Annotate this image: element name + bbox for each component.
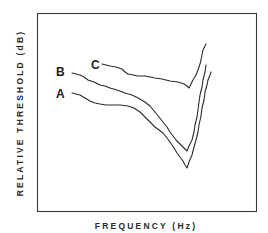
y-axis-label: RELATIVE THRESHOLD (dB): [15, 30, 25, 197]
curve-b: [72, 65, 206, 151]
label-series-a: A: [56, 87, 65, 101]
tuning-curve-chart: C B A FREQUENCY (Hz) RELATIVE THRESHOLD …: [0, 0, 268, 233]
curve-c: [102, 44, 206, 88]
label-series-c: C: [91, 58, 100, 72]
plot-frame: [38, 14, 257, 212]
x-axis-label: FREQUENCY (Hz): [95, 221, 197, 231]
label-series-b: B: [56, 65, 65, 79]
